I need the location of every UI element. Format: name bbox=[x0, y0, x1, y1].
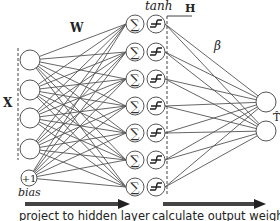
sum-icon: ∑ bbox=[130, 153, 140, 168]
sum-icon: ∑ bbox=[130, 17, 140, 32]
input-node bbox=[20, 108, 40, 128]
label-h: H bbox=[185, 2, 195, 15]
elm-diagram: +1∑∑∑∑∑∑∑ W X tanh H β T̂ bias project t… bbox=[0, 0, 280, 221]
label-t-hat: T̂ bbox=[273, 111, 280, 124]
step-calculate-label: calculate output weights bbox=[152, 209, 280, 221]
sum-icon: ∑ bbox=[130, 180, 140, 195]
hidden-node: ∑ bbox=[126, 151, 165, 169]
input-node bbox=[20, 139, 40, 159]
input-node bbox=[20, 50, 40, 70]
hidden-node: ∑ bbox=[126, 15, 165, 33]
label-tanh: tanh bbox=[145, 0, 172, 13]
output-node bbox=[256, 121, 276, 141]
label-w: W bbox=[69, 21, 84, 35]
bias-node-label: +1 bbox=[22, 173, 37, 184]
sum-icon: ∑ bbox=[130, 72, 140, 87]
hidden-node: ∑ bbox=[126, 70, 165, 88]
input-node bbox=[20, 80, 40, 100]
hidden-node: ∑ bbox=[126, 97, 165, 115]
hidden-node: ∑ bbox=[126, 124, 165, 142]
hidden-node: ∑ bbox=[126, 178, 165, 196]
hidden-node: ∑ bbox=[126, 43, 165, 61]
output-node bbox=[256, 92, 276, 112]
sum-icon: ∑ bbox=[130, 126, 140, 141]
arrow-calculate-head bbox=[254, 199, 266, 209]
nodes: +1∑∑∑∑∑∑∑ bbox=[20, 15, 276, 196]
sum-icon: ∑ bbox=[130, 45, 140, 60]
label-bias: bias bbox=[18, 186, 41, 199]
step-project-label: project to hidden layer bbox=[19, 209, 150, 221]
sum-icon: ∑ bbox=[130, 99, 140, 114]
arrow-project-head bbox=[118, 199, 130, 209]
label-beta: β bbox=[213, 39, 221, 53]
label-x: X bbox=[3, 96, 13, 110]
connections bbox=[33, 24, 259, 187]
